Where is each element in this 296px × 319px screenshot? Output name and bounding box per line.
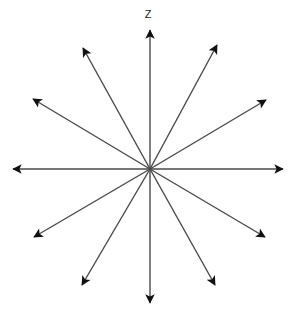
ray-down-left-shallow <box>34 169 150 237</box>
ray-group <box>13 30 283 303</box>
ray-down-left-steep <box>82 169 150 285</box>
ray-down-right-shallow <box>150 169 265 237</box>
ray-down-right-steep <box>150 169 215 285</box>
radial-arrow-diagram: Z <box>0 0 296 319</box>
ray-up-right-steep <box>150 45 217 169</box>
ray-canvas <box>0 0 296 319</box>
ray-up-left-steep <box>83 48 150 169</box>
ray-up-left-shallow <box>33 99 150 169</box>
axis-label-z: Z <box>0 8 296 20</box>
ray-up-right-shallow <box>150 100 266 169</box>
